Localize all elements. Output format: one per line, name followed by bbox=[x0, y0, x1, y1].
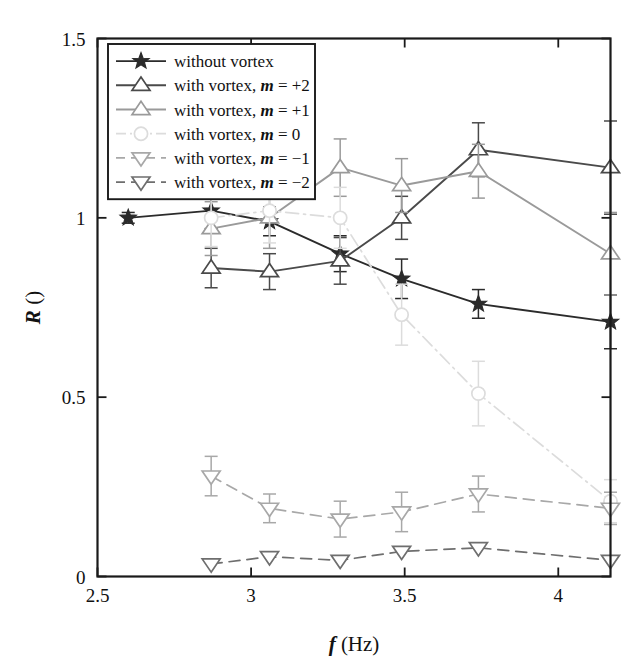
data-point bbox=[205, 211, 218, 224]
data-point bbox=[263, 204, 276, 217]
x-tick-label: 4 bbox=[554, 585, 564, 606]
x-tick-label: 2.5 bbox=[86, 585, 110, 606]
legend-label: with vortex, m = −2 bbox=[174, 173, 310, 192]
x-tick-label: 3.5 bbox=[393, 585, 417, 606]
y-tick-label: 1.5 bbox=[62, 29, 86, 50]
legend-box: without vortexwith vortex, m = +2with vo… bbox=[108, 44, 315, 199]
x-tick-label: 3 bbox=[246, 585, 256, 606]
y-tick-label: 1 bbox=[76, 208, 86, 229]
data-point bbox=[395, 308, 408, 321]
legend-label: with vortex, m = +2 bbox=[174, 76, 310, 95]
y-axis-title: R () bbox=[21, 291, 45, 325]
legend-label: with vortex, m = −1 bbox=[174, 149, 310, 168]
data-point bbox=[472, 387, 485, 400]
legend-label: with vortex, m = 0 bbox=[174, 125, 300, 144]
figure-container: 2.533.5400.511.5 without vortexwith vort… bbox=[0, 0, 643, 672]
y-tick-label: 0 bbox=[76, 567, 86, 588]
legend-marker bbox=[134, 127, 147, 140]
chart-canvas: 2.533.5400.511.5 without vortexwith vort… bbox=[0, 0, 643, 672]
x-axis-title: f (Hz) bbox=[329, 632, 380, 656]
y-tick-label: 0.5 bbox=[62, 387, 86, 408]
data-point bbox=[334, 211, 347, 224]
legend-label: without vortex bbox=[174, 52, 274, 71]
legend-label: with vortex, m = +1 bbox=[174, 101, 310, 120]
